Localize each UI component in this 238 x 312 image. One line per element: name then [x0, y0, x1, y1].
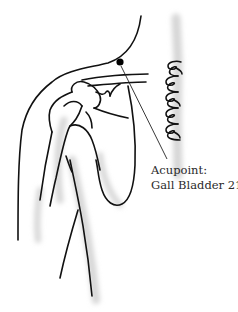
- acupoint-marker: [116, 58, 123, 65]
- acupoint-illustration: Acupoint: Gall Bladder 21: [0, 0, 238, 312]
- acupoint-label: Acupoint: Gall Bladder 21: [151, 163, 238, 193]
- acupoint-label-name: Gall Bladder 21: [151, 178, 238, 193]
- outline: [18, 16, 148, 296]
- shading: [37, 18, 178, 300]
- acupoint-label-title: Acupoint:: [151, 163, 238, 178]
- leader-line: [121, 66, 167, 159]
- shoulder-drawing: [0, 0, 238, 312]
